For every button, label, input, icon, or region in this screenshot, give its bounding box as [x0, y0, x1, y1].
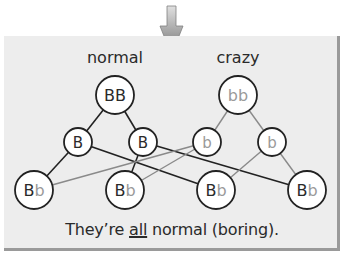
node-b2: b [258, 128, 286, 156]
node-label: bb [228, 86, 248, 105]
node-Bb2: Bb [106, 171, 144, 209]
node-label: BB [104, 86, 126, 105]
node-bb: bb [219, 76, 257, 114]
column-label-normal: normal [87, 48, 143, 67]
node-Bb4: Bb [288, 171, 326, 209]
node-label: b [267, 134, 277, 152]
node-label: Bb [114, 181, 135, 200]
column-label-crazy: crazy [216, 48, 259, 67]
node-Bb3: Bb [197, 171, 235, 209]
node-B1: B [64, 128, 92, 156]
node-BB: BB [96, 76, 134, 114]
node-label: B [138, 134, 148, 152]
caption-emphasis: all [129, 220, 147, 239]
caption-after: normal (boring). [147, 220, 279, 239]
node-label: Bb [205, 181, 226, 200]
node-Bb1: Bb [15, 171, 53, 209]
node-label: Bb [23, 181, 44, 200]
node-label: Bb [296, 181, 317, 200]
caption: They’re all normal (boring). [0, 220, 344, 239]
node-b1: b [193, 128, 221, 156]
node-label: B [73, 134, 83, 152]
caption-before: They’re [65, 220, 129, 239]
inheritance-diagram: normalcrazy BBbbBBbbBbBbBbBb [0, 0, 344, 257]
node-label: b [202, 134, 212, 152]
node-B2: B [129, 128, 157, 156]
